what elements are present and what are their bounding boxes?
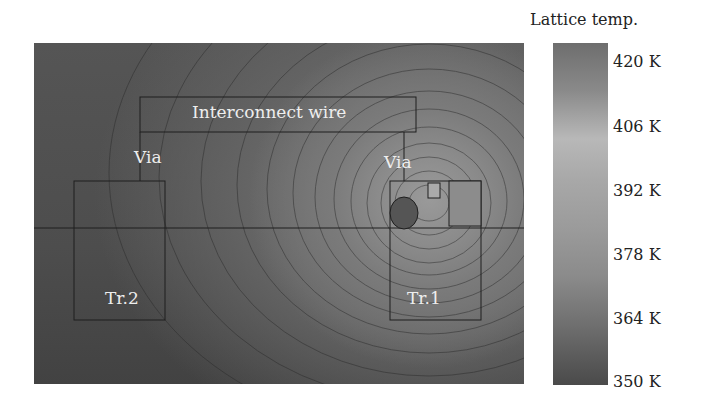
thermal-simulation-map: Interconnect wire Via Via Tr.2 Tr.1 bbox=[34, 43, 524, 384]
colorbar-tick: 378 K bbox=[613, 245, 661, 264]
colorbar-tick: 406 K bbox=[613, 117, 661, 136]
label-via-left: Via bbox=[134, 147, 162, 167]
colorbar-tick: 420 K bbox=[613, 52, 661, 71]
colorbar-tick: 350 K bbox=[613, 372, 661, 391]
label-interconnect-wire: Interconnect wire bbox=[192, 102, 346, 122]
label-via-right: Via bbox=[384, 152, 412, 172]
colorbar-title: Lattice temp. bbox=[530, 10, 638, 29]
colorbar-tick: 392 K bbox=[613, 181, 661, 200]
structure-outlines bbox=[34, 43, 524, 384]
colorbar-tick: 364 K bbox=[613, 309, 661, 328]
label-transistor-1: Tr.1 bbox=[407, 288, 441, 308]
colorbar bbox=[553, 43, 608, 385]
label-transistor-2: Tr.2 bbox=[105, 288, 139, 308]
